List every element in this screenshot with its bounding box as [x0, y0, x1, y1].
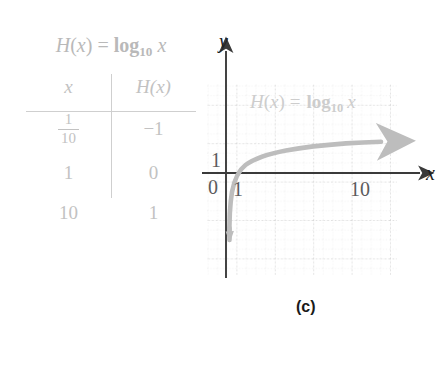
figure-panel: H(x) = log10 x x H(x) 1 10	[0, 0, 446, 369]
formula-log-argument: x	[157, 34, 166, 56]
table-row: 10 1	[26, 193, 196, 233]
x-axis-label: x	[425, 162, 435, 184]
inline-log-base: 10	[331, 101, 344, 115]
graph-area: H(x)=log10x 1 0 1 10 y x	[198, 28, 446, 288]
y-tick-label-1: 1	[211, 149, 221, 171]
table-head: x H(x)	[26, 72, 196, 106]
table-row: 1 10 −1	[26, 106, 196, 153]
origin-label: 0	[208, 176, 218, 198]
x-tick-label-10: 10	[350, 178, 370, 200]
x-tick-label-1: 1	[233, 178, 243, 200]
table-body: 1 10 −1 1 0 10 1	[26, 106, 196, 233]
formula-title: H(x) = log10 x	[26, 34, 196, 60]
cell-x-value: 10	[26, 193, 111, 233]
fraction-denominator: 10	[58, 131, 79, 147]
cell-x-value: 1	[26, 153, 111, 193]
values-table: x H(x) 1 10 −1 1 0	[26, 72, 196, 233]
formula-paren-open: (	[70, 34, 77, 56]
cell-hx-value: 1	[111, 193, 196, 233]
inline-fn-name: H	[249, 91, 265, 112]
y-axis-label: y	[217, 30, 228, 53]
cell-x-value: 1 10	[26, 106, 111, 153]
column-header-x: x	[26, 72, 111, 106]
fraction-numerator: 1	[58, 112, 79, 128]
table-row: 1 0	[26, 153, 196, 193]
values-table-wrap: x H(x) 1 10 −1 1 0	[26, 72, 196, 233]
formula-log: log	[114, 34, 140, 56]
figure-label: (c)	[296, 298, 316, 316]
formula-variable: x	[77, 34, 86, 56]
inline-log: log	[307, 91, 332, 112]
table-header-row: x H(x)	[26, 72, 196, 106]
column-header-hx: H(x)	[111, 72, 196, 106]
inline-log-arg: x	[346, 91, 356, 112]
formula-paren-close: )	[86, 34, 93, 56]
cell-hx-value: 0	[111, 153, 196, 193]
formula-function-name: H	[56, 34, 70, 56]
formula-log-base: 10	[139, 44, 152, 59]
fraction-one-tenth: 1 10	[58, 112, 79, 147]
formula-equals: =	[97, 34, 108, 56]
cell-hx-value: −1	[111, 106, 196, 153]
